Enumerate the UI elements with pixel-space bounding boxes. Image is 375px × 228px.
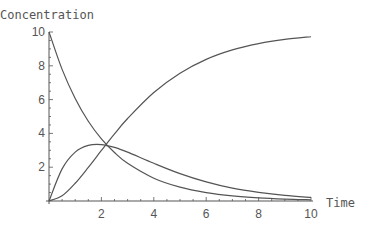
y-tick-label: 4 [38, 126, 45, 140]
series-line-2 [49, 37, 311, 201]
y-tick-label: 8 [38, 59, 45, 73]
y-tick-label: 6 [38, 93, 45, 107]
x-tick-label: 2 [98, 207, 105, 221]
series-line-0 [49, 32, 311, 200]
x-axis-label: Time [326, 196, 355, 210]
x-tick-label: 8 [255, 207, 262, 221]
concentration-time-chart: Concentration Time 246810246810 [0, 0, 375, 228]
y-tick-label: 10 [32, 25, 46, 39]
x-tick-label: 10 [304, 207, 318, 221]
curves [49, 32, 311, 201]
tick-labels: 246810246810 [32, 25, 318, 221]
series-line-1 [49, 144, 311, 201]
y-tick-label: 2 [38, 160, 45, 174]
x-tick-label: 4 [150, 207, 157, 221]
x-tick-label: 6 [203, 207, 210, 221]
y-axis-label: Concentration [0, 8, 94, 22]
